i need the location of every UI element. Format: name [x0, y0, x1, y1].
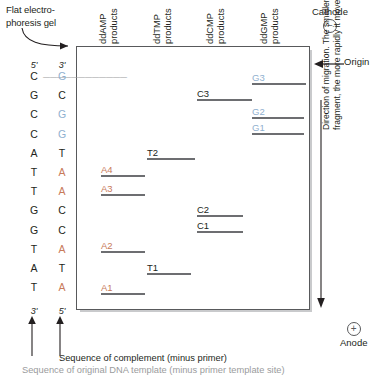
gel-band-a3: A3	[101, 183, 145, 196]
column-header-ddgmp-line1: ddGMP	[259, 0, 270, 44]
column-header-ddamp-line2: products	[109, 0, 120, 44]
complement-base-2: G	[54, 105, 70, 124]
gel-callout-line1: Flat electro-	[6, 4, 84, 17]
column-header-ddamp: ddAMP products	[98, 0, 119, 44]
gel-band-bar-g3	[252, 83, 306, 85]
complement-base-6: A	[54, 182, 70, 201]
gel-band-bar-t2	[147, 158, 195, 160]
template-base-2: C	[26, 105, 42, 124]
base-pair-tick-column: ————————————	[43, 67, 51, 86]
complement-base-7: C	[54, 201, 70, 220]
template-base-4: A	[26, 144, 42, 163]
complement-base-1: C	[54, 86, 70, 105]
complement-base-4: T	[54, 144, 70, 163]
complement-base-0: G	[54, 67, 70, 86]
column-header-ddcmp-line2: products	[216, 0, 227, 44]
template-base-10: A	[26, 259, 42, 278]
migration-direction-arrow-icon	[316, 100, 326, 310]
sequence-of-complement-caption: Sequence of complement (minus primer)	[59, 353, 227, 363]
base-pair-tick-10: —	[113, 73, 120, 80]
base-pair-tick-4: —	[71, 73, 78, 80]
migration-direction-label: Direction of migration. The smaller a fr…	[321, 0, 342, 130]
complement-base-3: G	[54, 125, 70, 144]
gel-band-label-t1: T1	[147, 263, 158, 273]
gel-band-g1: G1	[252, 122, 304, 135]
gel-band-label-c3: C3	[197, 89, 209, 99]
electrophoresis-gel-box	[76, 46, 310, 310]
base-pair-tick-11: —	[120, 73, 127, 80]
gel-band-label-a1: A1	[101, 283, 113, 293]
gel-band-g2: G2	[252, 106, 304, 119]
gel-band-a1: A1	[101, 282, 145, 295]
column-header-ddgmp: ddGMP products	[259, 0, 280, 44]
complement-base-10: T	[54, 259, 70, 278]
column-header-ddcmp-line1: ddCMP	[205, 0, 216, 44]
base-pair-tick-0: —	[43, 73, 50, 80]
gel-band-bar-g1	[252, 133, 304, 135]
migration-line2: fragment, the more rapidly it moves.	[332, 0, 343, 130]
gel-band-t2: T2	[147, 147, 195, 160]
column-header-ddcmp: ddCMP products	[205, 0, 226, 44]
template-base-3: C	[26, 125, 42, 144]
template-strand-column: CGCCATTGGTAT	[26, 67, 42, 297]
base-pair-tick-8: —	[99, 73, 106, 80]
gel-band-bar-g2	[252, 117, 304, 119]
template-base-9: T	[26, 240, 42, 259]
anode-label-group: + Anode	[340, 322, 367, 348]
gel-band-label-c2: C2	[197, 205, 209, 215]
gel-band-bar-a1	[101, 293, 145, 295]
gel-band-g3: G3	[252, 72, 306, 85]
template-base-1: G	[26, 86, 42, 105]
gel-band-bar-a4	[101, 175, 145, 177]
gel-band-label-a3: A3	[101, 184, 113, 194]
template-base-7: G	[26, 201, 42, 220]
gel-band-t1: T1	[147, 262, 191, 275]
gel-band-label-g1: G1	[252, 123, 265, 133]
complement-strand-column: GCGGTAACCATA	[54, 67, 70, 297]
gel-band-bar-c1	[197, 231, 243, 233]
gel-band-bar-t1	[147, 273, 191, 275]
template-base-6: T	[26, 182, 42, 201]
anode-plus-icon: +	[347, 322, 361, 336]
template-base-5: T	[26, 163, 42, 182]
column-header-ddtmp-line2: products	[163, 0, 174, 44]
anode-label: Anode	[340, 337, 367, 348]
gel-band-label-t2: T2	[147, 148, 158, 158]
template-base-11: T	[26, 278, 42, 297]
origin-label: Origin	[344, 56, 369, 67]
gel-band-bar-c2	[197, 215, 243, 217]
gel-band-bar-c3	[197, 99, 252, 101]
migration-line1: Direction of migration. The smaller a	[321, 0, 332, 130]
gel-band-c1: C1	[197, 220, 243, 233]
column-header-ddtmp-line1: ddTMP	[152, 0, 163, 44]
gel-band-a4: A4	[101, 164, 145, 177]
base-pair-tick-9: —	[106, 73, 113, 80]
figure-footnote: Sequence of original DNA template (minus…	[22, 365, 285, 375]
base-pair-tick-6: —	[85, 73, 92, 80]
gel-band-label-g2: G2	[252, 107, 265, 117]
complement-base-11: A	[54, 278, 70, 297]
gel-band-a2: A2	[101, 240, 145, 253]
gel-band-c2: C2	[197, 204, 243, 217]
column-header-ddgmp-line2: products	[270, 0, 281, 44]
gel-band-label-a2: A2	[101, 241, 113, 251]
column-header-ddamp-line1: ddAMP	[98, 0, 109, 44]
complement-base-9: A	[54, 240, 70, 259]
complement-base-8: C	[54, 221, 70, 240]
complement-base-5: A	[54, 163, 70, 182]
base-pair-tick-5: —	[78, 73, 85, 80]
strand-direction-arrows-icon	[24, 314, 74, 356]
base-pair-tick-7: —	[92, 73, 99, 80]
gel-band-bar-a2	[101, 251, 145, 253]
template-base-0: C	[26, 67, 42, 86]
gel-band-bar-a3	[101, 194, 145, 196]
gel-band-c3: C3	[197, 88, 252, 101]
template-base-8: G	[26, 221, 42, 240]
gel-band-label-c1: C1	[197, 221, 209, 231]
gel-band-label-g3: G3	[252, 73, 265, 83]
gel-band-label-a4: A4	[101, 165, 113, 175]
column-header-ddtmp: ddTMP products	[152, 0, 173, 44]
